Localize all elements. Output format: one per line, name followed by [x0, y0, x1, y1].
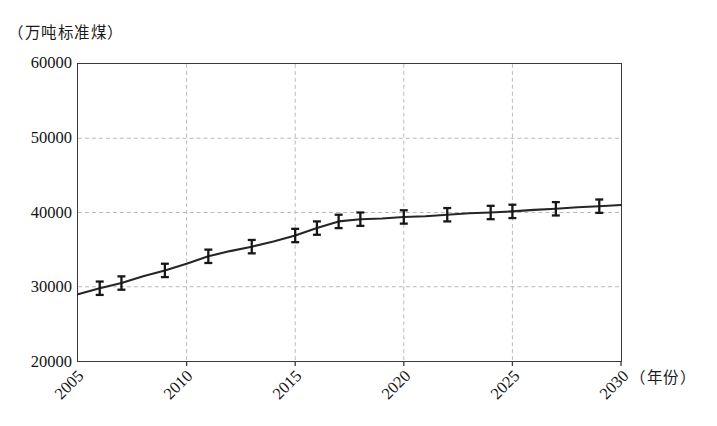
- x-axis-tick-label: 2005: [52, 368, 87, 403]
- x-axis-tick-label: 2025: [488, 368, 523, 403]
- x-axis-tick-label: 2015: [270, 368, 305, 403]
- x-axis-tick-label: 2010: [161, 368, 196, 403]
- x-axis-tick-labels: 200520102015202020252030: [0, 0, 717, 426]
- x-axis-unit-label: （年份）: [630, 365, 696, 387]
- x-axis-tick-label: 2030: [597, 368, 632, 403]
- energy-consumption-chart: （万吨标准煤） 6000050000400003000020000 200520…: [0, 0, 717, 426]
- x-axis-tick-label: 2020: [379, 368, 414, 403]
